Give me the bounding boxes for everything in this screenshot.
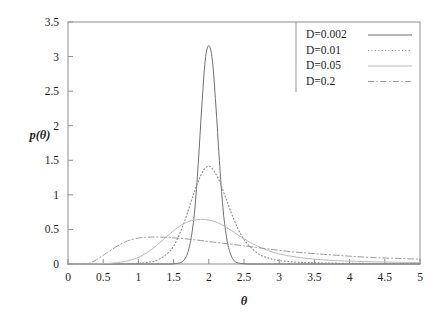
y-tick-label: 1.5 xyxy=(45,154,60,166)
x-tick-label: 3 xyxy=(276,271,282,283)
x-axis-ticks: 00.511.522.533.544.55 xyxy=(65,271,423,283)
x-tick-label: 3.5 xyxy=(307,271,322,283)
chart-figure: 00.511.522.533.5 00.511.522.533.544.55 p… xyxy=(0,0,443,320)
x-axis-title: θ xyxy=(241,294,248,308)
legend-label: D=0.002 xyxy=(306,28,347,40)
data-curve xyxy=(68,46,420,265)
y-tick-label: 2 xyxy=(53,120,59,132)
data-curves xyxy=(68,46,420,265)
y-tick-label: 1 xyxy=(53,189,59,201)
x-tick-label: 1 xyxy=(136,271,142,283)
legend-label: D=0.2 xyxy=(306,75,335,87)
plot-canvas: 00.511.522.533.5 00.511.522.533.544.55 p… xyxy=(0,0,443,320)
y-axis-title: p(θ) xyxy=(28,128,50,142)
x-tick-label: 4 xyxy=(347,271,353,283)
y-tick-label: 0.5 xyxy=(45,223,60,235)
x-tick-label: 0 xyxy=(65,271,71,283)
x-tick-label: 0.5 xyxy=(96,271,111,283)
legend-label: D=0.01 xyxy=(306,44,341,56)
data-curve xyxy=(68,166,420,264)
x-tick-label: 5 xyxy=(417,271,423,283)
y-tick-label: 0 xyxy=(53,258,59,270)
x-tick-label: 1.5 xyxy=(166,271,181,283)
x-tick-label: 4.5 xyxy=(378,271,393,283)
plot-frame xyxy=(68,22,420,264)
chart-legend: D=0.002D=0.01D=0.05D=0.2 xyxy=(296,22,412,92)
y-tick-label: 2.5 xyxy=(45,85,60,97)
y-tick-label: 3.5 xyxy=(45,16,60,28)
x-tick-label: 2.5 xyxy=(237,271,252,283)
tick-marks xyxy=(68,22,420,264)
x-tick-label: 2 xyxy=(206,271,212,283)
legend-label: D=0.05 xyxy=(306,59,341,71)
y-axis-ticks: 00.511.522.533.5 xyxy=(45,16,60,270)
y-tick-label: 3 xyxy=(53,51,59,63)
